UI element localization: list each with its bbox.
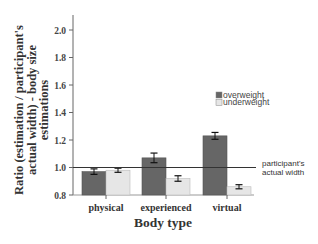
x-tick-label: physical [88, 202, 123, 213]
x-tick-label: virtual [213, 202, 242, 213]
bar-overweight-virtual [203, 136, 227, 195]
bar-underweight-physical [106, 170, 130, 195]
y-axis-title-line: estimations [38, 20, 51, 200]
legend-swatch-overweight [216, 92, 222, 98]
y-tick-label: 1.2 [54, 136, 66, 146]
y-tick-label: 1.8 [54, 53, 66, 63]
y-axis-title-line: Ratio (estimation / participant's [13, 20, 26, 200]
legend: overweightunderweight [216, 90, 270, 108]
legend-label-underweight: underweight [223, 97, 270, 107]
x-tick-label: experienced [140, 202, 192, 213]
reference-label-line: participant's [262, 159, 304, 168]
y-axis-ticks: 0.81.01.21.41.61.82.0 [54, 26, 73, 201]
y-tick-label: 2.0 [54, 26, 66, 36]
y-tick-label: 1.0 [54, 163, 66, 173]
bar-overweight-physical [82, 172, 106, 195]
y-axis-title: Ratio (estimation / participant's actual… [13, 20, 51, 200]
reference-line-label: participant'sactual width [262, 159, 304, 177]
reference-label-line: actual width [262, 168, 304, 177]
y-tick-label: 1.4 [54, 108, 66, 118]
y-tick-label: 0.8 [54, 191, 66, 201]
x-axis-title: Body type [134, 215, 192, 230]
y-tick-label: 1.6 [54, 81, 66, 91]
legend-swatch-underweight [216, 100, 222, 106]
bar-overweight-experienced [142, 158, 166, 195]
x-axis-labels: physicalexperiencedvirtual [88, 195, 241, 213]
bars [82, 132, 251, 195]
